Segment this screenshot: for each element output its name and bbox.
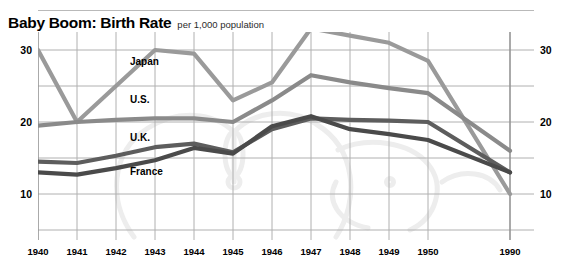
chart-screenshot: Baby Boom: Birth Rate per 1,000 populati…	[0, 0, 570, 272]
axis-frame	[38, 32, 510, 240]
x-axis-label-1940: 1940	[16, 246, 60, 257]
series-label-us: U.S.	[130, 94, 149, 105]
chart-title: Baby Boom: Birth Rate	[8, 14, 171, 32]
series-label-uk: U.K.	[130, 132, 150, 143]
y-axis-label-right-10: 10	[540, 188, 566, 200]
chart-header: Baby Boom: Birth Rate per 1,000 populati…	[8, 14, 264, 32]
plot-area: Japan U.S. U.K. France	[38, 32, 534, 240]
chart-subtitle: per 1,000 population	[177, 19, 264, 30]
y-axis-label-right-20: 20	[540, 116, 566, 128]
x-axis-label-1941: 1941	[55, 246, 99, 257]
series-line-france	[38, 116, 510, 174]
x-axis-label-1943: 1943	[133, 246, 177, 257]
y-axis-label-left-20: 20	[6, 116, 32, 128]
x-axis-label-1949: 1949	[367, 246, 411, 257]
y-axis-label-right-30: 30	[540, 44, 566, 56]
series-label-france: France	[130, 166, 163, 177]
chart-svg	[38, 32, 534, 240]
x-axis-label-1950: 1950	[406, 246, 450, 257]
x-axis-label-1948: 1948	[328, 246, 372, 257]
gridlines-vertical	[38, 32, 510, 240]
x-axis-label-1945: 1945	[211, 246, 255, 257]
y-axis-label-left-10: 10	[6, 188, 32, 200]
x-axis-label-1944: 1944	[172, 246, 216, 257]
x-axis-label-1942: 1942	[94, 246, 138, 257]
header-divider	[38, 10, 534, 11]
x-axis-label-1946: 1946	[250, 246, 294, 257]
y-axis-label-left-30: 30	[6, 44, 32, 56]
series-label-japan: Japan	[130, 56, 159, 67]
x-axis-label-1990: 1990	[488, 246, 532, 257]
x-axis-label-1947: 1947	[289, 246, 333, 257]
